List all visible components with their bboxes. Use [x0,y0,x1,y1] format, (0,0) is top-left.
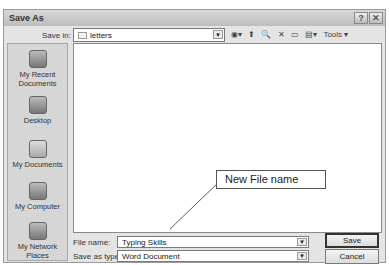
new-file-name-callout: New File name [216,170,326,189]
callout-leader-line [0,0,389,265]
